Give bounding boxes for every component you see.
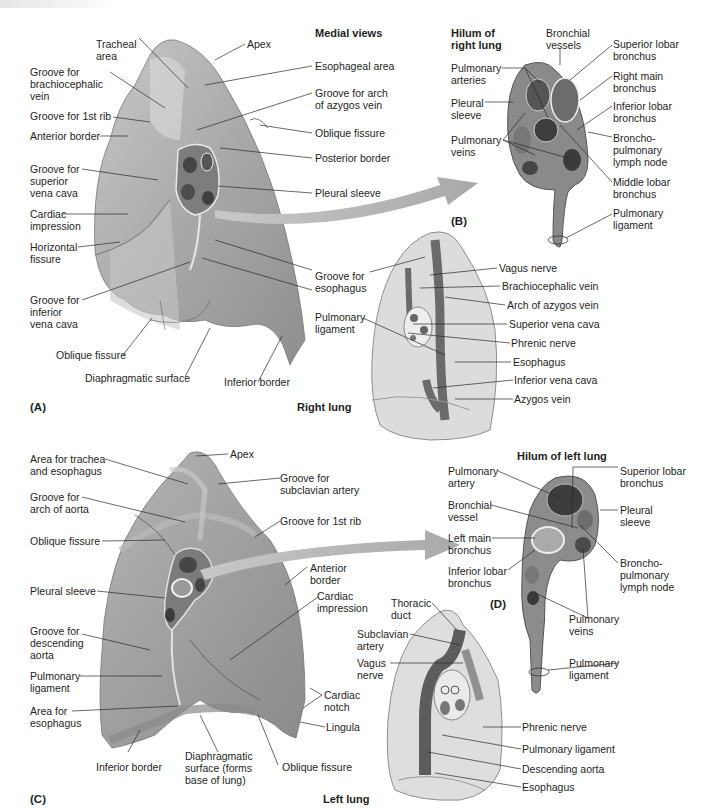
label-bronchial-vessels: Bronchial vessels [546, 27, 590, 51]
label-groove-arch-aorta: Groove for arch of aorta [30, 491, 89, 515]
label-descending-aorta: Descending aorta [522, 763, 604, 775]
label-pulmonary-veins-d: Pulmonary veins [569, 613, 619, 637]
label-pulmonary-ligament-l: Pulmonary ligament [522, 743, 615, 755]
label-oblique-fissure-c2: Oblique fissure [282, 761, 352, 773]
label-area-trachea-esophagus: Area for trachea and esophagus [30, 453, 105, 477]
label-oblique-fissure-c: Oblique fissure [30, 535, 100, 547]
label-middle-lobar-bronchus: Middle lobar bronchus [613, 176, 670, 200]
label-bronchial-vessel: Bronchial vessel [448, 499, 492, 523]
label-subclavian-artery: Subclavian artery [357, 628, 408, 652]
label-inferior-lobar-bronchus-b: Inferior lobar bronchus [613, 100, 672, 124]
label-esophagus-l: Esophagus [522, 781, 575, 793]
label-inferior-border-c: Inferior border [96, 761, 162, 773]
hilum-right-detail [508, 62, 589, 247]
panel-label-d: (D) [490, 598, 506, 610]
label-left-main-bronchus: Left main bronchus [448, 532, 491, 556]
label-superior-vena-cava: Superior vena cava [509, 318, 599, 330]
label-oblique-fissure-r: Oblique fissure [315, 127, 385, 139]
label-bronchopulmonary-lymph-node-b: Broncho- pulmonary lymph node [613, 132, 667, 168]
label-oblique-fissure: Oblique fissure [56, 349, 126, 361]
label-vagus-nerve-l: Vagus nerve [357, 657, 386, 681]
panel-label-b: (B) [451, 215, 467, 227]
label-cardiac-notch: Cardiac notch [324, 689, 360, 713]
label-pleural-sleeve-b: Pleural sleeve [451, 97, 484, 121]
label-pulmonary-veins-b: Pulmonary veins [451, 134, 501, 158]
label-pulmonary-artery: Pulmonary artery [448, 465, 498, 489]
left-lung-medial-view [100, 452, 305, 748]
label-superior-lobar-bronchus-d: Superior lobar bronchus [620, 465, 686, 489]
panel-label-c: (C) [30, 793, 46, 805]
label-inferior-border: Inferior border [224, 376, 290, 388]
title-hilum-right-lung: Hilum of right lung [451, 27, 502, 51]
label-bronchopulmonary-lymph-node-d: Broncho- pulmonary lymph node [620, 557, 674, 593]
label-phrenic-nerve-l: Phrenic nerve [522, 721, 587, 733]
label-pleural-sleeve-d: Pleural sleeve [620, 504, 653, 528]
label-groove-brachiocephalic-vein: Groove for brachiocephalic vein [30, 66, 103, 102]
label-anterior-border-c: Anterior border [310, 562, 347, 586]
label-inferior-lobar-bronchus-d: Inferior lobar bronchus [448, 565, 507, 589]
label-groove-1st-rib-c: Groove for 1st rib [280, 515, 361, 527]
right-lung-schematic [372, 232, 497, 440]
label-cardiac-impression: Cardiac impression [30, 208, 81, 232]
label-pulmonary-ligament-b: Pulmonary ligament [613, 207, 663, 231]
label-esophageal-area: Esophageal area [315, 60, 394, 72]
label-lingula: Lingula [326, 721, 360, 733]
label-anterior-border: Anterior border [30, 130, 100, 142]
title-medial-views: Medial views [315, 27, 382, 39]
label-phrenic-nerve: Phrenic nerve [511, 337, 576, 349]
label-arch-azygos-vein: Arch of azygos vein [507, 299, 599, 311]
label-groove-esophagus: Groove for esophagus [315, 270, 366, 294]
label-groove-subclavian-artery: Groove for subclavian artery [280, 472, 359, 496]
label-pulmonary-ligament-a: Pulmonary ligament [315, 311, 365, 335]
label-pulmonary-arteries: Pulmonary arteries [451, 62, 501, 86]
label-area-esophagus: Area for esophagus [30, 705, 81, 729]
label-apex-c: Apex [230, 448, 254, 460]
label-groove-1st-rib: Groove for 1st rib [30, 110, 111, 122]
label-azygos-vein: Azygos vein [514, 393, 571, 405]
label-inferior-vena-cava: Inferior vena cava [514, 374, 597, 386]
label-apex: Apex [247, 38, 271, 50]
label-esophagus: Esophagus [513, 356, 566, 368]
label-groove-arch-azygos: Groove for arch of azygos vein [315, 87, 388, 111]
title-right-lung: Right lung [297, 401, 351, 413]
label-diaphragmatic-surface-c: Diaphragmatic surface (forms base of lun… [185, 750, 253, 786]
title-hilum-left-lung: Hilum of left lung [517, 450, 607, 462]
label-cardiac-impression-c: Cardiac impression [317, 590, 368, 614]
label-posterior-border: Posterior border [315, 152, 390, 164]
title-left-lung: Left lung [323, 793, 369, 805]
label-pulmonary-ligament-d: Pulmonary ligament [569, 657, 619, 681]
label-diaphragmatic-surface: Diaphragmatic surface [85, 372, 190, 384]
label-pulmonary-ligament-c: Pulmonary ligament [30, 670, 80, 694]
label-thoracic-duct: Thoracic duct [391, 597, 431, 621]
label-groove-svc: Groove for superior vena cava [30, 163, 80, 199]
label-horizontal-fissure: Horizontal fissure [30, 241, 77, 265]
label-groove-descending-aorta: Groove for descending aorta [30, 625, 84, 661]
label-pleural-sleeve-c: Pleural sleeve [30, 585, 96, 597]
label-right-main-bronchus: Right main bronchus [613, 70, 663, 94]
label-vagus-nerve: Vagus nerve [499, 262, 557, 274]
label-brachiocephalic-vein: Brachiocephalic vein [502, 280, 598, 292]
label-groove-ivc: Groove for inferior vena cava [30, 294, 80, 330]
label-tracheal-area: Tracheal area [96, 38, 136, 62]
label-superior-lobar-bronchus-b: Superior lobar bronchus [613, 38, 679, 62]
label-pleural-sleeve: Pleural sleeve [315, 187, 381, 199]
right-lung-medial-view [95, 40, 305, 365]
panel-label-a: (A) [30, 401, 46, 413]
